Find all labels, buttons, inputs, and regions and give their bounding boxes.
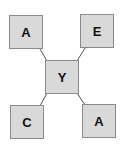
node-center: Y — [45, 60, 79, 94]
node-bottom-right: A — [82, 104, 116, 138]
node-top-left: A — [9, 15, 43, 49]
node-top-right: E — [80, 14, 114, 48]
node-bottom-left: C — [10, 105, 44, 139]
